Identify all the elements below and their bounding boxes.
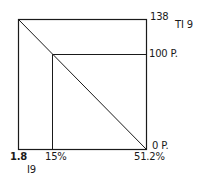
top-right-value-label: 138 <box>150 12 169 22</box>
bottom-right-axis-value-label: 51.2% <box>134 152 165 162</box>
bottom-mid-value-label: 15% <box>45 152 67 162</box>
bottom-right-value-label: 0 P. <box>152 141 168 151</box>
bottom-left-value-label: 1.8 <box>10 152 27 162</box>
mid-right-value-label: 100 P. <box>149 49 178 59</box>
diagonal-line <box>19 20 147 150</box>
bottom-tag-label: I9 <box>27 165 36 175</box>
figure-tag-label: TI 9 <box>175 20 193 30</box>
